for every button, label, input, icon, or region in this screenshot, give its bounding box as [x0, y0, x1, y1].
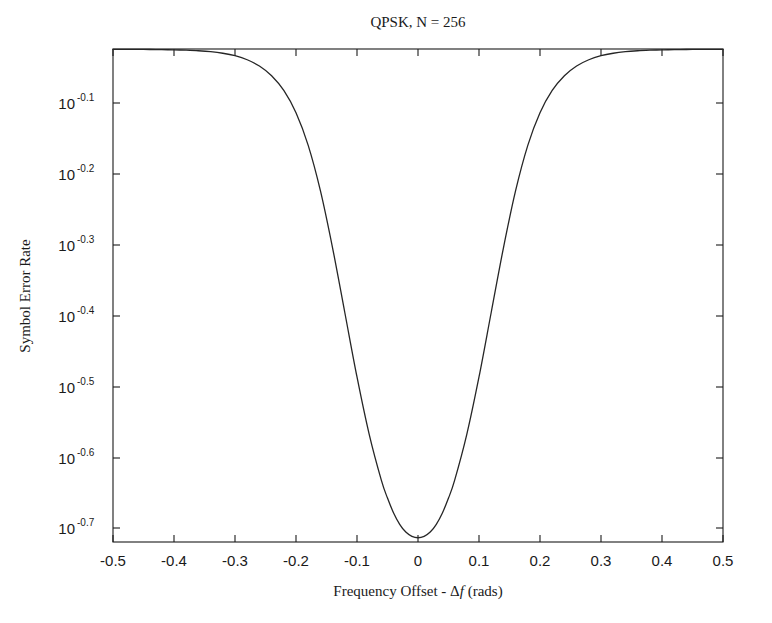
y-tick-mantissa: 10 [58, 520, 75, 537]
delta-symbol: Δ [450, 583, 460, 599]
y-tick-mantissa: 10 [58, 450, 75, 467]
y-tick-exponent: -0.7 [77, 517, 95, 528]
x-tick-label: -0.3 [222, 552, 248, 569]
y-axis-title: Symbol Error Rate [17, 239, 33, 353]
y-tick-exponent: -0.6 [77, 447, 95, 458]
chart-figure: QPSK, N = 256 [0, 0, 772, 623]
x-tick-label: 0.3 [591, 552, 612, 569]
x-axis-title: Frequency Offset - Δf (rads) [333, 583, 502, 600]
x-tick-label: 0.4 [652, 552, 673, 569]
y-tick-mantissa: 10 [58, 95, 75, 112]
y-tick-exponent: -0.2 [77, 163, 95, 174]
y-tick-exponent: -0.4 [77, 305, 95, 316]
figure-background [0, 0, 772, 623]
x-tick-label: 0.5 [713, 552, 734, 569]
y-tick-mantissa: 10 [58, 237, 75, 254]
x-tick-label: -0.5 [100, 552, 126, 569]
x-tick-label: -0.2 [283, 552, 309, 569]
x-axis-title-suffix: (rads) [464, 583, 503, 600]
x-tick-label: 0.2 [530, 552, 551, 569]
y-tick-exponent: -0.3 [77, 234, 95, 245]
chart-svg: QPSK, N = 256 [0, 0, 772, 623]
x-tick-label: 0 [414, 552, 422, 569]
x-axis-title-prefix: Frequency Offset - [333, 583, 450, 599]
y-tick-exponent: -0.1 [77, 92, 95, 103]
x-tick-label: -0.4 [161, 552, 187, 569]
y-tick-exponent: -0.5 [77, 376, 95, 387]
x-tick-label: 0.1 [469, 552, 490, 569]
y-tick-mantissa: 10 [58, 308, 75, 325]
x-tick-label: -0.1 [344, 552, 370, 569]
y-tick-mantissa: 10 [58, 166, 75, 183]
y-tick-mantissa: 10 [58, 379, 75, 396]
chart-title: QPSK, N = 256 [370, 14, 466, 30]
